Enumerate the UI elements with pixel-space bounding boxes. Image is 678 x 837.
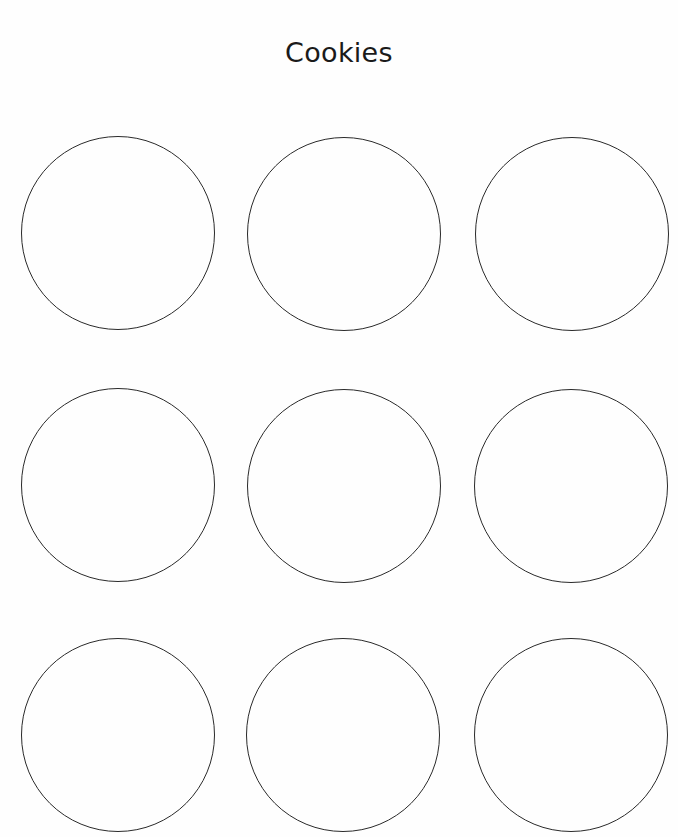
cookie-circle bbox=[21, 136, 215, 330]
cookie-circle bbox=[247, 389, 441, 583]
cookie-circle bbox=[246, 638, 440, 832]
cookie-circle bbox=[474, 638, 668, 832]
cookie-circle bbox=[247, 137, 441, 331]
page-title: Cookies bbox=[0, 36, 678, 70]
worksheet-page: Cookies bbox=[0, 0, 678, 837]
cookie-circle bbox=[474, 389, 668, 583]
cookie-circle bbox=[21, 388, 215, 582]
cookie-circle bbox=[475, 137, 669, 331]
cookie-circle bbox=[21, 638, 215, 832]
